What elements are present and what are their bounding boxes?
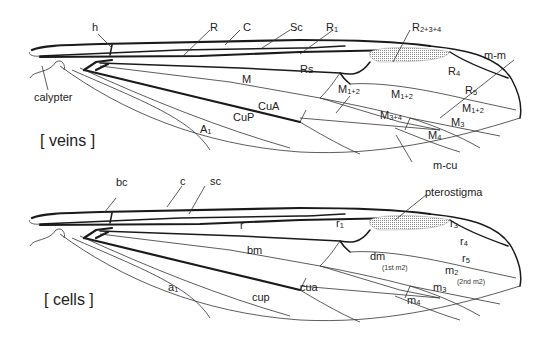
label-A1: A1 [200, 124, 212, 136]
label-m-m: m-m [484, 50, 506, 61]
wing-venation-figure: h R C Sc R1 R2+3+4 m-m Rs R4 R5 M M1+2 M… [0, 0, 538, 350]
label-c: c [180, 176, 186, 187]
label-CuA: CuA [258, 101, 279, 112]
label-m3: m3 [433, 282, 446, 294]
label-R4: R4 [448, 66, 460, 78]
label-bm: bm [247, 245, 262, 256]
label-r3: r3 [450, 218, 458, 230]
label-sc: sc [210, 176, 221, 187]
label-C: C [243, 22, 251, 33]
label-CuP: CuP [233, 112, 254, 123]
label-h: h [92, 22, 98, 33]
label-R: R [210, 22, 218, 33]
label-R5: R5 [465, 85, 477, 97]
label-r5: r5 [462, 253, 470, 265]
label-M1-2-a: M1+2 [338, 84, 360, 96]
wing-veins-drawing [29, 40, 520, 154]
label-cup: cup [252, 292, 270, 303]
label-M3: M3 [451, 117, 464, 129]
label-M3-4: M3+4 [380, 110, 402, 122]
panel-title-cells: [ cells ] [44, 291, 94, 309]
panel-title-veins: [ veins ] [40, 132, 95, 150]
label-M1-2-b: M1+2 [391, 89, 413, 101]
label-m4: m4 [407, 295, 420, 307]
label-calypter: calypter [34, 92, 73, 103]
label-M1-2-c: M1+2 [462, 103, 484, 115]
label-cua: cua [300, 282, 318, 293]
label-m2: m2 [445, 265, 458, 277]
label-Rs: Rs [300, 64, 313, 75]
label-pterostigma: pterostigma [425, 187, 482, 198]
label-R2-3-4: R2+3+4 [412, 22, 441, 34]
label-r: r [240, 220, 244, 231]
label-M4: M4 [428, 130, 441, 142]
label-a1: a1 [168, 282, 178, 294]
label-r4: r4 [460, 236, 468, 248]
label-R1: R1 [326, 22, 338, 34]
label-m-cu: m-cu [433, 160, 457, 171]
label-Sc: Sc [290, 22, 303, 33]
label-bc: bc [116, 177, 128, 188]
label-m2-note: (2nd m2) [457, 278, 485, 285]
label-dm: dm [370, 251, 385, 262]
label-r1: r1 [336, 218, 344, 230]
label-dm-note: (1st m2) [382, 264, 408, 271]
label-M: M [242, 74, 251, 85]
